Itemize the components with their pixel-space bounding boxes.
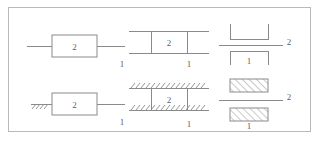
body-label: 2 bbox=[167, 38, 172, 48]
diagram-grounded-block: 2 1 bbox=[25, 80, 135, 128]
upper-hatched-block bbox=[230, 79, 268, 92]
link-label: 1 bbox=[247, 56, 252, 66]
figure-border: 2 1 2 1 2 1 bbox=[8, 7, 311, 132]
upper-rail-hatch bbox=[131, 83, 205, 88]
link-label: 1 bbox=[120, 117, 125, 127]
line-label: 2 bbox=[287, 37, 292, 47]
body-label: 2 bbox=[72, 42, 77, 52]
upper-bracket bbox=[230, 24, 268, 39]
lower-rail-hatch bbox=[131, 105, 205, 110]
line-label: 2 bbox=[287, 92, 292, 102]
free-floating-rails-drawing: 2 1 bbox=[127, 22, 227, 70]
body-label: 2 bbox=[167, 95, 172, 105]
link-label: 1 bbox=[187, 119, 192, 129]
ground-hatch-icon bbox=[32, 104, 48, 109]
diagram-free-floating-bracket-pair: 2 1 bbox=[217, 20, 307, 70]
bracket-pair-drawing: 2 1 bbox=[217, 20, 307, 70]
diagram-grounded-hatched-blocks: 2 1 bbox=[217, 76, 307, 130]
link-label: 1 bbox=[187, 59, 192, 69]
link-label: 1 bbox=[247, 121, 252, 131]
free-floating-block-drawing: 2 1 bbox=[25, 22, 135, 70]
body-label: 2 bbox=[72, 100, 77, 110]
diagram-free-floating-block: 2 1 bbox=[25, 22, 135, 70]
link-label: 1 bbox=[120, 59, 125, 69]
diagram-free-floating-slider-rails: 2 1 bbox=[127, 22, 227, 70]
lower-hatched-block bbox=[230, 108, 268, 121]
grounded-block-drawing: 2 1 bbox=[25, 80, 135, 128]
diagram-grounded-slider-rails: 2 1 bbox=[127, 74, 227, 130]
hatched-blocks-drawing: 2 1 bbox=[217, 76, 307, 130]
grounded-rails-drawing: 2 1 bbox=[127, 74, 227, 130]
